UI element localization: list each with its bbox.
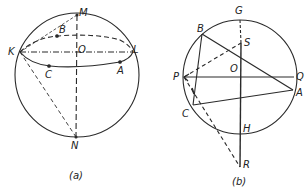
figure: M B K O L C A N (a) G B S P O Q A C H R … (0, 0, 308, 194)
label-B: B (197, 24, 204, 34)
caption-b: (b) (232, 177, 246, 187)
label-A: A (117, 66, 124, 76)
label-M: M (79, 8, 88, 18)
point-A-dot (119, 61, 122, 64)
side-AC (193, 90, 293, 105)
panel-b-drawing (183, 20, 297, 167)
label-A: A (296, 88, 303, 98)
axis-MN (76, 15, 77, 137)
label-R: R (243, 160, 250, 170)
label-N: N (71, 141, 78, 151)
label-L: L (133, 45, 139, 55)
label-G: G (235, 6, 243, 16)
point-B-dot (56, 35, 59, 38)
point-N-dot (75, 136, 77, 138)
label-H: H (243, 124, 251, 134)
label-P: P (173, 72, 179, 82)
label-Q: Q (296, 72, 304, 82)
label-S: S (244, 38, 250, 48)
label-O: O (78, 45, 86, 55)
point-C-dot (48, 65, 51, 68)
label-C: C (182, 109, 189, 119)
segment-GS (240, 20, 241, 43)
line-SR (240, 43, 241, 167)
label-B: B (59, 25, 66, 35)
figure-drawing (0, 0, 308, 194)
tick-mark (192, 88, 194, 94)
label-C: C (45, 70, 52, 80)
caption-a: (a) (69, 171, 83, 181)
label-O: O (230, 64, 238, 74)
label-K: K (8, 47, 15, 57)
point-M-dot (76, 14, 78, 16)
